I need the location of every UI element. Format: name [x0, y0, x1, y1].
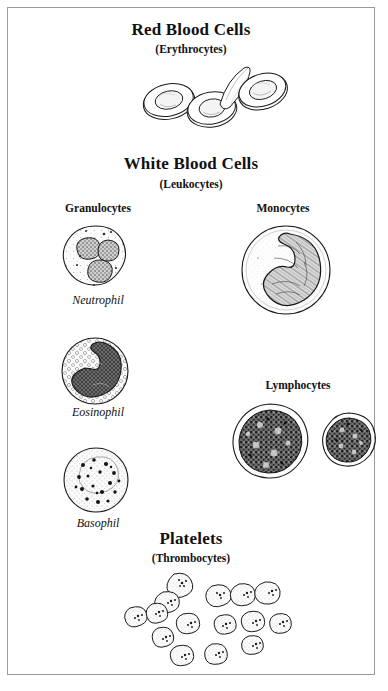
platelets-title: Platelets [8, 529, 374, 549]
eosinophil-label: Eosinophil [28, 405, 168, 420]
eosinophil-illustration [59, 335, 133, 407]
basophil-illustration [61, 445, 133, 515]
white-blood-cells-subtitle: (Leukocytes) [8, 178, 374, 190]
white-blood-cells-title: White Blood Cells [8, 154, 374, 174]
red-blood-cells-subtitle: (Erythrocytes) [8, 43, 374, 55]
monocytes-label: Monocytes [213, 202, 353, 214]
platelets-subtitle: (Thrombocytes) [8, 552, 374, 564]
neutrophil-illustration [58, 222, 134, 294]
red-blood-cells-illustration [136, 60, 286, 130]
red-blood-cells-title: Red Blood Cells [8, 20, 374, 40]
figure-frame: Red Blood Cells (Erythrocytes) [7, 7, 375, 675]
small-lymphocyte-illustration [321, 410, 377, 468]
platelets-illustration [108, 570, 298, 675]
large-lymphocyte-illustration [230, 401, 310, 481]
granulocytes-label: Granulocytes [28, 202, 168, 214]
monocyte-illustration [238, 222, 334, 318]
lymphocytes-label: Lymphocytes [223, 379, 373, 391]
neutrophil-label: Neutrophil [28, 293, 168, 308]
blood-cells-figure: Red Blood Cells (Erythrocytes) [0, 0, 388, 691]
